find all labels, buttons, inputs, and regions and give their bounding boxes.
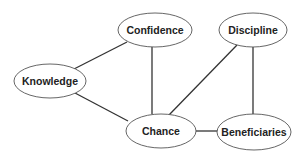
node-label: Discipline (228, 24, 278, 36)
edge-confidence-knowledge (74, 42, 127, 69)
node-confidence: Confidence (118, 13, 192, 47)
node-beneficiaries: Beneficiaries (217, 114, 291, 150)
node-chance: Chance (126, 114, 196, 148)
node-label: Beneficiaries (221, 126, 287, 138)
node-label: Confidence (126, 24, 183, 36)
concept-graph: ConfidenceDisciplineKnowledgeChanceBenef… (0, 0, 303, 158)
node-label: Knowledge (22, 75, 78, 87)
edge-discipline-chance (169, 45, 237, 115)
node-label: Chance (142, 125, 180, 137)
node-knowledge: Knowledge (14, 64, 86, 98)
edge-knowledge-chance (75, 93, 128, 121)
node-discipline: Discipline (219, 13, 287, 47)
